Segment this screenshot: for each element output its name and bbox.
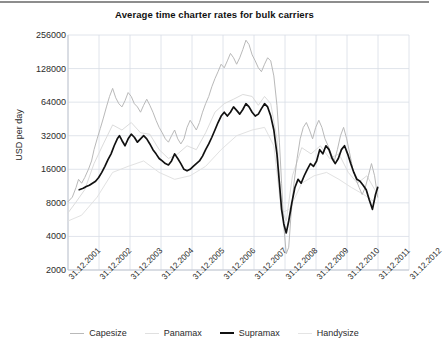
- y-axis-tick: 64000: [4, 97, 66, 107]
- legend-label: Capesize: [89, 328, 127, 338]
- legend-label: Panamax: [164, 328, 202, 338]
- series-line-panamax: [68, 94, 376, 221]
- y-axis-tick: 128000: [4, 64, 66, 74]
- y-axis-tick: 2000: [4, 265, 66, 275]
- legend-item-supramax[interactable]: Supramax: [220, 328, 280, 338]
- series-line-handysize: [68, 127, 376, 221]
- legend-item-capesize[interactable]: Capesize: [70, 328, 127, 338]
- legend-item-handysize[interactable]: Handysize: [298, 328, 359, 338]
- y-axis-tick: 16000: [4, 164, 66, 174]
- legend-swatch-icon: [145, 333, 159, 334]
- legend-item-panamax[interactable]: Panamax: [145, 328, 202, 338]
- legend-swatch-icon: [220, 332, 234, 334]
- y-axis-tick-labels: 200040008000160003200064000128000256000: [0, 0, 66, 352]
- y-axis-tick: 8000: [4, 198, 66, 208]
- chart-legend: CapesizePanamaxSupramaxHandysize: [0, 328, 429, 338]
- y-axis-tick: 32000: [4, 131, 66, 141]
- legend-label: Supramax: [239, 328, 280, 338]
- legend-label: Handysize: [317, 328, 359, 338]
- legend-swatch-icon: [298, 333, 312, 334]
- y-axis-tick: 4000: [4, 231, 66, 241]
- legend-swatch-icon: [70, 333, 84, 334]
- y-axis-tick: 256000: [4, 30, 66, 40]
